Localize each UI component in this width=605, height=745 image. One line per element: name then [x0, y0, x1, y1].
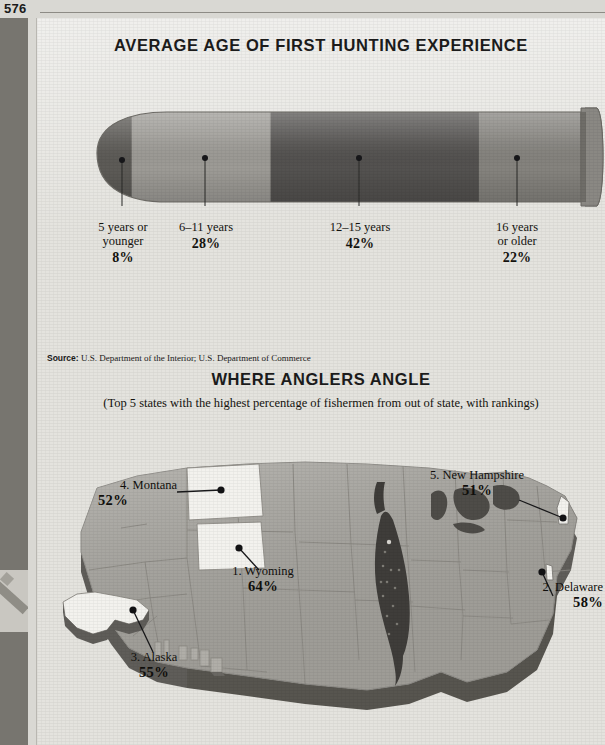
map-label-new-hampshire: 5. New Hampshire 51%: [397, 468, 557, 498]
bullet-svg: [37, 98, 605, 223]
bullet-label-3: 12–15 years 42%: [303, 220, 417, 251]
state-wyoming: [197, 522, 265, 570]
source-label: Source:: [47, 353, 79, 363]
bullet-label-1-line2: younger: [103, 234, 144, 248]
bullet-label-2-pct: 28%: [150, 237, 262, 251]
us-map-graphic: 4. Montana 52% 1. Wyoming 64% 5. New Ham…: [37, 420, 605, 720]
map-label-delaware: 2. Delaware 58%: [477, 580, 603, 610]
content-panel: AVERAGE AGE OF FIRST HUNTING EXPERIENCE: [36, 18, 605, 745]
margin-photo-fragment: [0, 570, 28, 632]
map-label-wyoming: 1. Wyoming 64%: [193, 564, 333, 594]
bullet-case-rim: [581, 108, 603, 206]
map-label-montana-pct: 52%: [49, 493, 177, 508]
state-montana: [187, 464, 263, 520]
bullet-label-3-line1: 12–15 years: [330, 220, 391, 234]
dot-delaware: [538, 568, 545, 575]
bullet-chart-title: AVERAGE AGE OF FIRST HUNTING EXPERIENCE: [37, 36, 605, 55]
bullet-chart-graphic: [37, 98, 605, 223]
map-chart-subtitle: (Top 5 states with the highest percentag…: [37, 396, 605, 411]
map-label-montana-name: 4. Montana: [120, 478, 177, 492]
map-label-montana: 4. Montana 52%: [49, 478, 177, 508]
page-number: 576: [4, 1, 27, 16]
map-label-delaware-pct: 58%: [477, 595, 603, 610]
map-label-new-hampshire-pct: 51%: [397, 483, 557, 498]
bullet-label-4-line2: or older: [497, 234, 536, 248]
bullet-label-1-line1: 5 years or: [98, 220, 147, 234]
left-margin-bar: [0, 18, 28, 745]
map-label-wyoming-name: 1. Wyoming: [232, 564, 294, 578]
dot-montana: [217, 486, 224, 493]
map-label-alaska: 3. Alaska 55%: [87, 650, 221, 680]
bullet-label-2: 6–11 years 28%: [150, 220, 262, 251]
map-chart-title: WHERE ANGLERS ANGLE: [37, 370, 605, 389]
bullet-chart-legend: 5 years or younger 8% 6–11 years 28% 12–…: [37, 214, 605, 309]
header-rule: [40, 12, 605, 13]
bullet-label-4-pct: 22%: [467, 251, 567, 265]
bullet-label-1-pct: 8%: [75, 251, 171, 265]
map-label-alaska-pct: 55%: [87, 665, 221, 680]
dot-wyoming: [235, 544, 242, 551]
map-label-alaska-name: 3. Alaska: [131, 650, 178, 664]
bullet-label-2-line1: 6–11 years: [179, 220, 233, 234]
bullet-label-4: 16 years or older 22%: [467, 220, 567, 265]
map-label-wyoming-pct: 64%: [193, 579, 333, 594]
map-label-delaware-name: 2. Delaware: [543, 580, 603, 594]
source-text: U.S. Department of the Interior; U.S. De…: [81, 353, 311, 363]
source-line: Source: U.S. Department of the Interior;…: [47, 353, 311, 363]
bullet-label-4-line1: 16 years: [496, 220, 538, 234]
state-delaware: [546, 564, 553, 580]
map-label-new-hampshire-name: 5. New Hampshire: [430, 468, 524, 482]
dot-new-hampshire: [559, 514, 566, 521]
bullet-label-3-pct: 42%: [303, 237, 417, 251]
magazine-page: 576 AVERAGE AGE OF FIRST HUNTING EXPERIE…: [0, 0, 605, 745]
dot-alaska: [129, 606, 136, 613]
